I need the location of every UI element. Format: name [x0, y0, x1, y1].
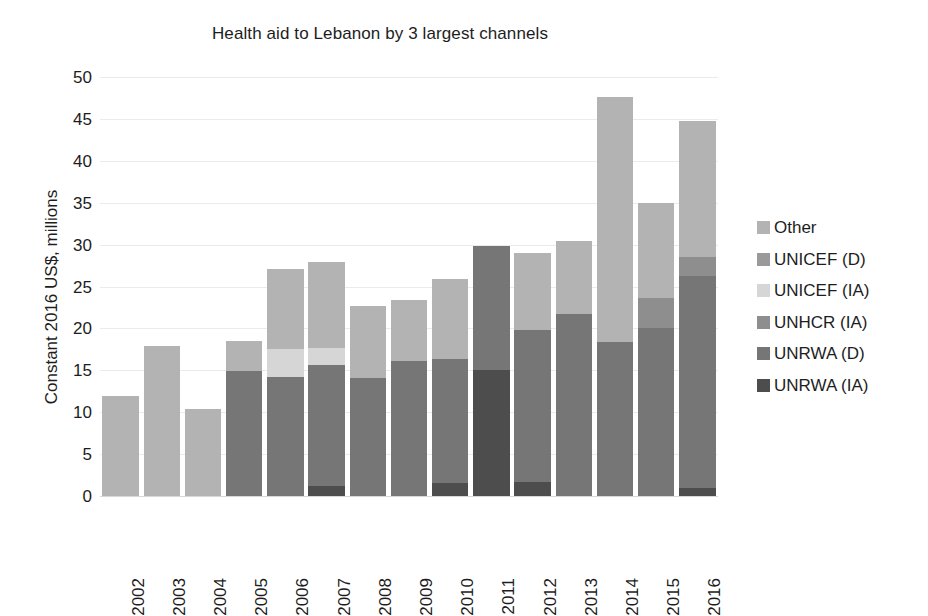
y-axis-tick-label: 0: [83, 488, 92, 505]
x-axis-tick-label: 2008: [376, 578, 396, 616]
bar-segment[interactable]: [679, 121, 715, 257]
bar-segment[interactable]: [308, 486, 344, 496]
y-axis-tick-label: 45: [73, 110, 92, 127]
bar-segment[interactable]: [638, 203, 674, 299]
bar-column[interactable]: [638, 77, 674, 496]
bar-segment[interactable]: [185, 409, 221, 496]
bar-column[interactable]: [391, 77, 427, 496]
y-axis-tick-label: 5: [83, 446, 92, 463]
bar-column[interactable]: [597, 77, 633, 496]
bar-stack: [473, 246, 509, 496]
legend-label: UNHCR (IA): [774, 314, 868, 331]
legend-item[interactable]: UNICEF (IA): [757, 275, 922, 307]
legend-item[interactable]: UNRWA (D): [757, 338, 922, 370]
x-axis-tick-label: 2006: [293, 578, 313, 616]
bar-segment[interactable]: [679, 488, 715, 496]
bar-column[interactable]: [679, 77, 715, 496]
plot-area: [100, 77, 718, 496]
y-axis-tick-label: 15: [73, 362, 92, 379]
legend-label: UNICEF (IA): [774, 282, 869, 299]
legend-item[interactable]: UNHCR (IA): [757, 307, 922, 339]
y-axis-tick-labels: 05101520253035404550: [48, 77, 92, 496]
bar-segment[interactable]: [432, 359, 468, 483]
bar-segment[interactable]: [391, 361, 427, 496]
bar-segment[interactable]: [556, 241, 592, 314]
bar-stack: [308, 262, 344, 496]
bar-segment[interactable]: [638, 298, 674, 328]
x-axis-tick-label: 2012: [541, 578, 561, 616]
bar-segment[interactable]: [473, 370, 509, 496]
bar-segment[interactable]: [473, 246, 509, 370]
bar-segment[interactable]: [597, 342, 633, 496]
chart-title: Health aid to Lebanon by 3 largest chann…: [0, 24, 760, 44]
y-axis-tick-label: 25: [73, 278, 92, 295]
legend-label: UNRWA (IA): [774, 377, 868, 394]
bar-column[interactable]: [350, 77, 386, 496]
bar-segment[interactable]: [226, 341, 262, 371]
bar-segment[interactable]: [432, 483, 468, 496]
bar-segment[interactable]: [102, 396, 138, 496]
bar-column[interactable]: [185, 77, 221, 496]
bar-segment[interactable]: [638, 328, 674, 496]
bar-segment[interactable]: [144, 346, 180, 496]
x-axis-tick-label: 2005: [252, 578, 272, 616]
bar-segment[interactable]: [308, 348, 344, 366]
bar-segment[interactable]: [308, 365, 344, 486]
legend-item[interactable]: UNICEF (D): [757, 244, 922, 276]
x-axis-tick-label: 2014: [623, 578, 643, 616]
bar-stack: [432, 279, 468, 496]
bar-stack: [638, 203, 674, 496]
bar-column[interactable]: [514, 77, 550, 496]
legend-item[interactable]: Other: [757, 212, 922, 244]
y-axis-tick-label: 50: [73, 69, 92, 86]
bar-stack: [679, 121, 715, 496]
legend-swatch: [757, 379, 770, 392]
bar-stack: [597, 97, 633, 496]
legend-swatch: [757, 221, 770, 234]
x-axis-tick-label: 2003: [170, 578, 190, 616]
bar-column[interactable]: [144, 77, 180, 496]
bar-column[interactable]: [267, 77, 303, 496]
bar-segment[interactable]: [308, 262, 344, 347]
y-axis-tick-label: 40: [73, 152, 92, 169]
bar-column[interactable]: [308, 77, 344, 496]
bar-segment[interactable]: [267, 349, 303, 377]
bar-segment[interactable]: [556, 314, 592, 496]
bar-segment[interactable]: [514, 253, 550, 330]
bar-column[interactable]: [556, 77, 592, 496]
bar-segment[interactable]: [514, 482, 550, 496]
x-axis-tick-label: 2007: [335, 578, 355, 616]
legend-item[interactable]: UNRWA (IA): [757, 370, 922, 402]
x-axis-tick-label: 2013: [582, 578, 602, 616]
legend-swatch: [757, 253, 770, 266]
bar-segment[interactable]: [350, 378, 386, 496]
legend-label: UNRWA (D): [774, 345, 865, 362]
bar-segment[interactable]: [514, 330, 550, 482]
x-axis-tick-label: 2016: [705, 578, 725, 616]
legend-swatch: [757, 284, 770, 297]
x-axis-tick-label: 2002: [129, 578, 149, 616]
bar-segment[interactable]: [267, 377, 303, 496]
bar-segment[interactable]: [267, 269, 303, 349]
legend-swatch: [757, 316, 770, 329]
y-axis-tick-label: 20: [73, 320, 92, 337]
bar-column[interactable]: [102, 77, 138, 496]
bar-column[interactable]: [226, 77, 262, 496]
bar-stack: [267, 269, 303, 496]
bar-column[interactable]: [432, 77, 468, 496]
bar-segment[interactable]: [679, 257, 715, 275]
x-axis-tick-label: 2011: [499, 578, 519, 615]
bar-segment[interactable]: [350, 306, 386, 378]
bar-series-group: [100, 77, 718, 496]
bar-segment[interactable]: [226, 371, 262, 496]
x-axis-tick-label: 2015: [664, 578, 684, 616]
bar-segment[interactable]: [391, 300, 427, 361]
bar-segment[interactable]: [597, 97, 633, 342]
bar-stack: [226, 341, 262, 496]
bar-column[interactable]: [473, 77, 509, 496]
bar-segment[interactable]: [679, 276, 715, 489]
bar-segment[interactable]: [432, 279, 468, 359]
chart-legend: OtherUNICEF (D)UNICEF (IA)UNHCR (IA)UNRW…: [757, 212, 922, 401]
legend-label: UNICEF (D): [774, 251, 866, 268]
